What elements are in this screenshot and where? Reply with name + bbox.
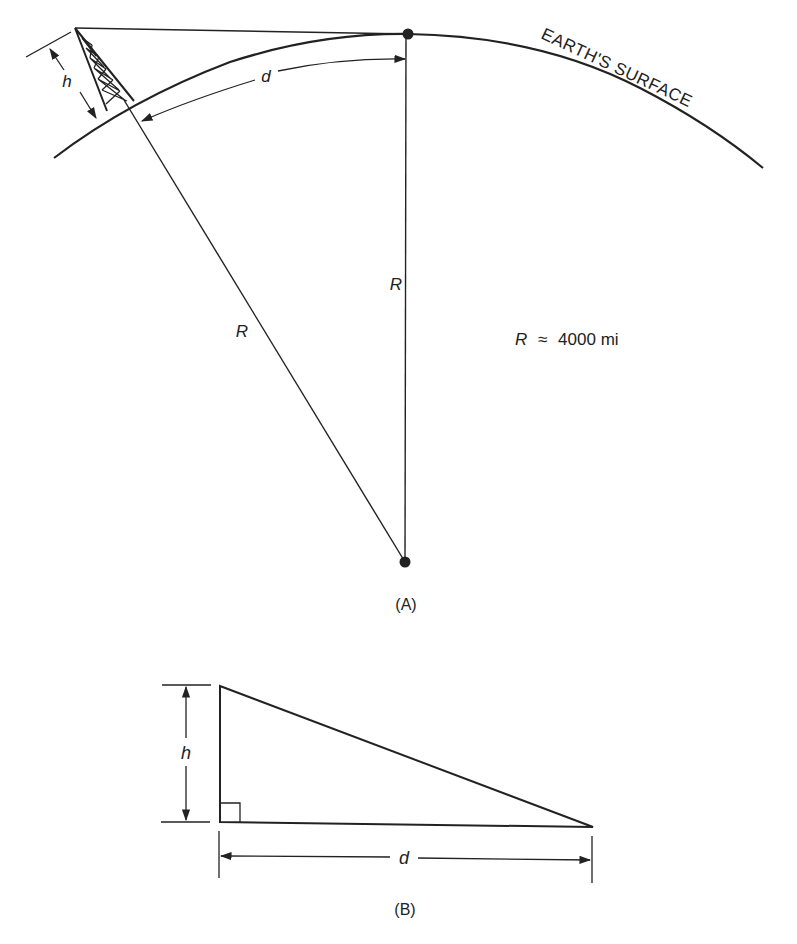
caption-a: (A) [395, 596, 416, 613]
earth-surface-label-group: EARTH'S SURFACE [538, 24, 695, 111]
h-label-b: h [181, 743, 191, 763]
d-label-a: d [261, 67, 271, 86]
d-arc-arrow-right [278, 59, 405, 71]
figure-b: h d (B) [161, 685, 593, 918]
figure-a: h d EARTH'S SURFACE R R R ≈ 4000 mi (A) [26, 24, 763, 613]
radius-value: 4000 mi [558, 330, 618, 349]
approx-symbol: ≈ [538, 330, 547, 349]
caption-b: (B) [394, 901, 415, 918]
earth-surface-label: EARTH'S SURFACE [538, 24, 695, 111]
radius-line-slanted [124, 100, 405, 562]
r-label-slanted: R [236, 322, 248, 341]
earth-center-point [400, 557, 411, 568]
radius-symbol: R [515, 330, 527, 349]
d-arc-arrow-left [142, 80, 255, 121]
h-arrow-lower [80, 92, 96, 118]
right-triangle [220, 686, 593, 827]
r-label-vertical: R [390, 275, 402, 294]
h-arrow-upper [50, 49, 64, 70]
line-of-sight [75, 28, 408, 34]
right-angle-marker [220, 803, 240, 822]
d-arrow-left [221, 856, 390, 857]
d-arrow-right [418, 858, 590, 860]
earth-curvature-figure: h d EARTH'S SURFACE R R R ≈ 4000 mi (A) [0, 0, 797, 944]
radius-line-vertical [405, 34, 406, 562]
radius-value-annotation: R ≈ 4000 mi [515, 330, 619, 349]
earth-surface-curve [54, 34, 763, 168]
tangent-point [403, 29, 414, 40]
h-label-a: h [62, 72, 71, 91]
d-label-b: d [399, 848, 410, 868]
h-extension-line [26, 32, 71, 57]
